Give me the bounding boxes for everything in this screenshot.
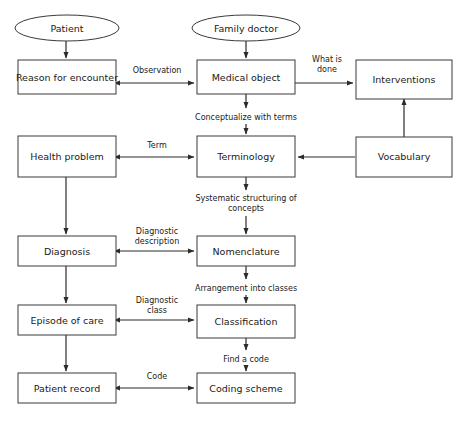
node-coding-scheme[interactable]: Coding scheme	[197, 373, 295, 403]
edge-health-problem-to-terminology: Term	[120, 141, 194, 157]
node-episode-of-care[interactable]: Episode of care	[18, 305, 116, 335]
node-label-patient-record: Patient record	[34, 383, 100, 394]
edge-label-diagnostic-description-line2: description	[135, 237, 179, 246]
edge-label-systematic-structuring-line1: Systematic structuring of	[195, 194, 296, 203]
node-label-patient: Patient	[50, 23, 83, 34]
edge-label-diagnostic-description-line1: Diagnostic	[136, 227, 178, 236]
node-label-episode-of-care: Episode of care	[30, 315, 103, 326]
node-diagnosis[interactable]: Diagnosis	[18, 236, 116, 266]
edge-reason-for-encounter-to-medical-object: Observation	[120, 66, 194, 83]
node-label-diagnosis: Diagnosis	[44, 246, 90, 257]
edge-classification-to-coding-scheme: Find a code	[223, 337, 269, 371]
edge-medical-object-to-terminology: Conceptualize with terms	[195, 94, 297, 134]
flowchart-diagram: Observation What is done Conceptualize w…	[0, 0, 467, 424]
node-label-coding-scheme: Coding scheme	[209, 383, 282, 394]
node-vocabulary[interactable]: Vocabulary	[356, 137, 452, 177]
edge-medical-object-to-interventions: What is done	[294, 55, 353, 83]
node-label-medical-object: Medical object	[212, 72, 281, 83]
edge-label-diagnostic-class-line2: class	[147, 306, 167, 315]
node-label-reason-for-encounter: Reason for encounter	[16, 72, 118, 83]
edge-label-observation: Observation	[133, 66, 182, 75]
node-label-nomenclature: Nomenclature	[212, 246, 279, 257]
edge-label-conceptualize-with-terms: Conceptualize with terms	[195, 113, 297, 122]
flowchart-canvas: Observation What is done Conceptualize w…	[0, 0, 467, 424]
node-label-health-problem: Health problem	[30, 151, 104, 162]
edge-label-arrangement-into-classes: Arrangement into classes	[195, 284, 297, 293]
node-classification[interactable]: Classification	[197, 305, 295, 338]
edge-label-systematic-structuring-line2: concepts	[228, 204, 264, 213]
node-terminology[interactable]: Terminology	[197, 136, 295, 177]
node-nomenclature[interactable]: Nomenclature	[197, 236, 295, 266]
node-label-vocabulary: Vocabulary	[378, 151, 431, 162]
edge-label-diagnostic-class-line1: Diagnostic	[136, 296, 178, 305]
edge-label-what-is-done-line2: done	[317, 65, 337, 74]
edge-label-find-a-code: Find a code	[223, 355, 269, 364]
edge-nomenclature-to-classification: Arrangement into classes	[195, 266, 297, 303]
edge-label-what-is-done-line1: What is	[312, 55, 342, 64]
edge-patient-record-to-coding-scheme: Code	[120, 372, 194, 388]
node-family-doctor[interactable]: Family doctor	[192, 15, 300, 41]
node-patient[interactable]: Patient	[15, 15, 119, 41]
node-label-terminology: Terminology	[216, 151, 275, 162]
node-health-problem[interactable]: Health problem	[18, 136, 116, 177]
node-reason-for-encounter[interactable]: Reason for encounter	[16, 60, 118, 94]
edge-label-code: Code	[147, 372, 168, 381]
node-medical-object[interactable]: Medical object	[197, 60, 295, 94]
edge-episode-of-care-to-classification: Diagnostic class	[120, 296, 194, 320]
edge-label-term: Term	[146, 141, 167, 150]
node-label-classification: Classification	[215, 316, 278, 327]
node-patient-record[interactable]: Patient record	[18, 373, 116, 403]
edge-diagnosis-to-nomenclature: Diagnostic description	[120, 227, 194, 251]
node-interventions[interactable]: Interventions	[356, 60, 452, 99]
node-label-interventions: Interventions	[373, 74, 436, 85]
edge-terminology-to-nomenclature: Systematic structuring of concepts	[195, 177, 296, 234]
node-label-family-doctor: Family doctor	[214, 23, 278, 34]
